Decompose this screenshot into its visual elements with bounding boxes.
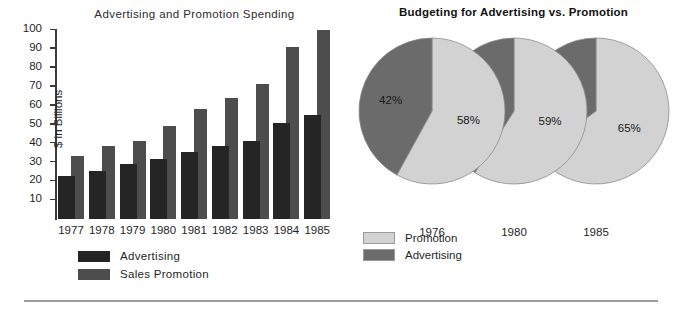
bar-group bbox=[273, 30, 299, 219]
y-tick-label: 20 bbox=[29, 175, 42, 187]
bar-advertising bbox=[150, 159, 167, 219]
bar-advertising bbox=[273, 123, 290, 219]
legend-swatch-icon bbox=[363, 249, 395, 261]
legend-label: Sales Promotion bbox=[120, 268, 209, 280]
x-tick-label: 1977 bbox=[54, 224, 88, 236]
bar-group bbox=[58, 30, 84, 219]
pie-chart-panel: Budgeting for Advertising vs. Promotion … bbox=[345, 0, 682, 311]
y-tick-label: 60 bbox=[29, 99, 42, 111]
bar-advertising bbox=[181, 152, 198, 219]
y-tick-label: 40 bbox=[29, 137, 42, 149]
legend-label: Advertising bbox=[120, 250, 180, 262]
bar-group bbox=[89, 30, 115, 219]
bar-chart-plot-area: $ in Billions 102030405060708090100 1977… bbox=[56, 30, 333, 219]
bottom-divider bbox=[24, 300, 658, 302]
bar-group bbox=[120, 30, 146, 219]
x-tick-label: 1985 bbox=[300, 224, 334, 236]
legend-swatch-icon bbox=[78, 251, 110, 262]
y-tick-label: 30 bbox=[29, 156, 42, 168]
x-tick-label: 1980 bbox=[146, 224, 180, 236]
pie-chart-1976: 58%42%1976 bbox=[357, 36, 507, 186]
x-tick-label: 1982 bbox=[208, 224, 242, 236]
bar-chart-title: Advertising and Promotion Spending bbox=[52, 8, 337, 20]
y-tick-label: 100 bbox=[23, 24, 42, 36]
legend-label: Advertising bbox=[405, 249, 462, 261]
y-tick-label: 90 bbox=[29, 42, 42, 54]
x-tick-label: 1978 bbox=[85, 224, 119, 236]
bar-chart-legend: AdvertisingSales Promotion bbox=[78, 250, 209, 286]
legend-item: Sales Promotion bbox=[78, 268, 209, 280]
pie-year-label: 1976 bbox=[357, 226, 507, 238]
y-tick-mark: 50 bbox=[50, 123, 56, 125]
bar-advertising bbox=[58, 176, 75, 219]
y-tick-mark: 70 bbox=[50, 85, 56, 87]
bar-advertising bbox=[304, 115, 321, 219]
y-tick-mark: 30 bbox=[50, 161, 56, 163]
bar-advertising bbox=[120, 164, 137, 219]
legend-item: Advertising bbox=[363, 249, 462, 261]
y-tick-mark: 100 bbox=[50, 29, 56, 31]
bar-advertising bbox=[89, 171, 106, 219]
bar-group bbox=[212, 30, 238, 219]
y-tick-label: 70 bbox=[29, 80, 42, 92]
bar-chart-panel: Advertising and Promotion Spending $ in … bbox=[0, 0, 345, 311]
y-tick-label: 50 bbox=[29, 118, 42, 130]
bar-advertising bbox=[243, 141, 260, 219]
x-tick-label: 1984 bbox=[269, 224, 303, 236]
legend-item: Advertising bbox=[78, 250, 209, 262]
legend-swatch-icon bbox=[78, 269, 110, 280]
y-tick-mark: 80 bbox=[50, 66, 56, 68]
x-tick-label: 1981 bbox=[177, 224, 211, 236]
bar-group bbox=[243, 30, 269, 219]
y-tick-mark: 60 bbox=[50, 104, 56, 106]
bar-group bbox=[150, 30, 176, 219]
y-tick-label: 10 bbox=[29, 194, 42, 206]
bar-advertising bbox=[212, 146, 229, 219]
bar-group bbox=[304, 30, 330, 219]
bar-group bbox=[181, 30, 207, 219]
y-tick-mark: 20 bbox=[50, 180, 56, 182]
x-tick-label: 1979 bbox=[116, 224, 150, 236]
figure-page: Advertising and Promotion Spending $ in … bbox=[0, 0, 682, 311]
y-tick-label: 80 bbox=[29, 61, 42, 73]
y-tick-mark: 90 bbox=[50, 47, 56, 49]
y-tick-mark: 40 bbox=[50, 142, 56, 144]
x-tick-label: 1983 bbox=[239, 224, 273, 236]
pie-chart-title: Budgeting for Advertising vs. Promotion bbox=[345, 6, 682, 18]
y-tick-mark: 10 bbox=[50, 199, 56, 201]
